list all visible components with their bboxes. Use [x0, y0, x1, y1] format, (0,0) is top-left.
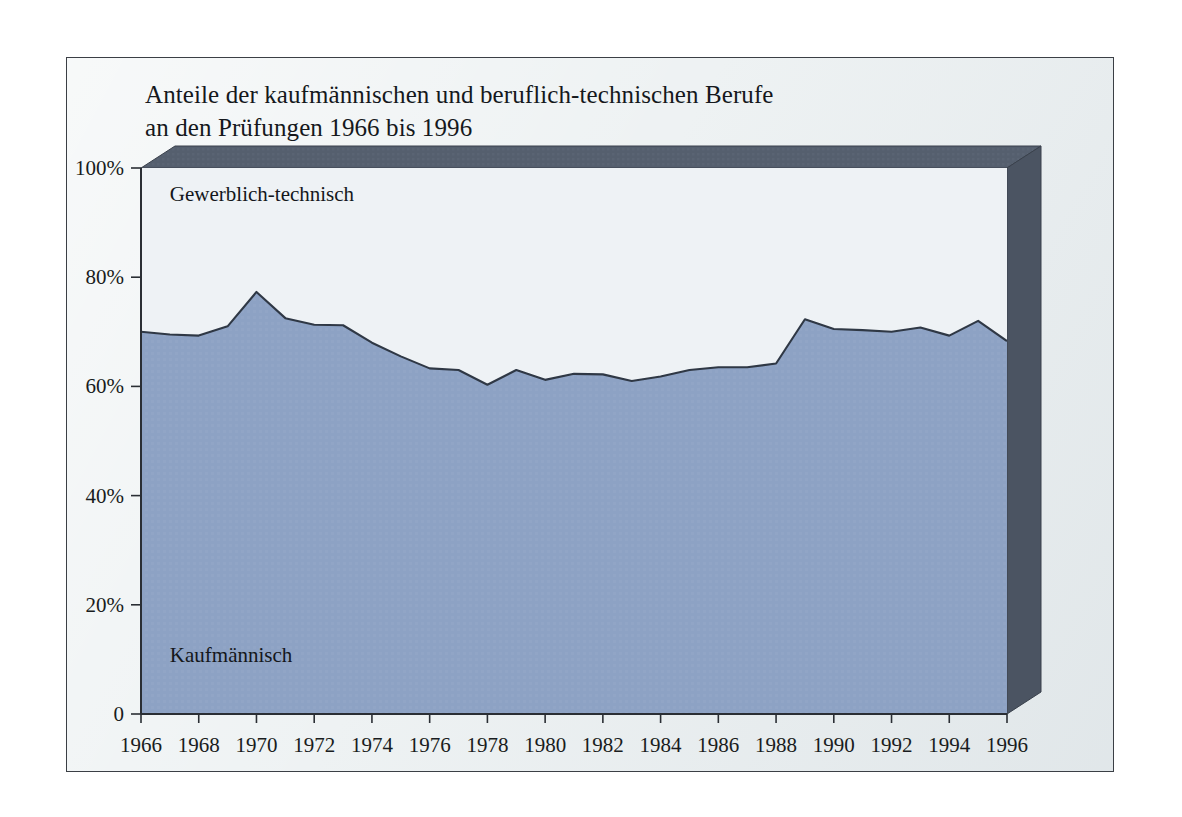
bevel-top	[141, 146, 1041, 168]
figure-card: Anteile der kaufmännischen und beruflich…	[66, 57, 1114, 772]
x-tick-label: 1992	[871, 733, 913, 757]
x-tick-label: 1984	[640, 733, 683, 757]
y-tick-label: 20%	[86, 593, 125, 617]
area-chart-svg: 020%40%60%80%100% 1966196819701972197419…	[67, 58, 1115, 773]
x-tick-label: 1968	[178, 733, 220, 757]
chart-area: 020%40%60%80%100% 1966196819701972197419…	[67, 58, 1115, 773]
y-tick-label: 80%	[86, 265, 125, 289]
x-tick-label: 1972	[293, 733, 335, 757]
x-tick-label: 1990	[813, 733, 855, 757]
y-tick-label: 60%	[86, 374, 125, 398]
x-tick-label: 1986	[697, 733, 739, 757]
series-label-gewerblich-technisch: Gewerblich-technisch	[170, 182, 355, 206]
x-tick-label: 1996	[986, 733, 1028, 757]
bevel-right	[1007, 146, 1041, 714]
y-axis-ticks: 020%40%60%80%100%	[75, 156, 141, 726]
x-tick-label: 1966	[120, 733, 162, 757]
y-tick-label: 0	[114, 702, 125, 726]
x-tick-label: 1976	[409, 733, 451, 757]
x-tick-label: 1974	[351, 733, 394, 757]
x-tick-label: 1978	[466, 733, 508, 757]
y-tick-label: 40%	[86, 484, 125, 508]
x-tick-label: 1982	[582, 733, 624, 757]
x-tick-label: 1980	[524, 733, 566, 757]
x-tick-label: 1994	[928, 733, 971, 757]
x-tick-label: 1988	[755, 733, 797, 757]
y-tick-label: 100%	[75, 156, 124, 180]
x-axis-ticks: 1966196819701972197419761978198019821984…	[120, 714, 1028, 757]
series-label-kaufmaennisch: Kaufmännisch	[170, 643, 293, 667]
x-tick-label: 1970	[235, 733, 277, 757]
page-root: Anteile der kaufmännischen und beruflich…	[0, 0, 1182, 817]
